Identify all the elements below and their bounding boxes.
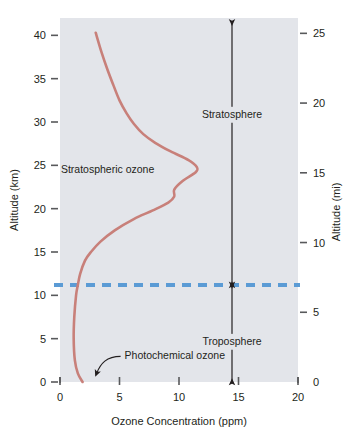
x-axis-tick-label: 5 bbox=[116, 391, 122, 403]
y2-axis-tick-label: 15 bbox=[313, 167, 325, 179]
photochemical-ozone-label: Photochemical ozone bbox=[125, 349, 226, 361]
y-axis-tick-label: 35 bbox=[34, 73, 46, 85]
y2-axis-tick-label: 10 bbox=[313, 237, 325, 249]
x-axis-tick-label: 10 bbox=[173, 391, 185, 403]
y-axis-tick-label: 10 bbox=[34, 289, 46, 301]
x-axis-title: Ozone Concentration (ppm) bbox=[111, 415, 247, 427]
zone-label-troposphere: Troposphere bbox=[202, 335, 261, 347]
y-axis-tick-label: 40 bbox=[34, 29, 46, 41]
y2-axis-tick-label: 25 bbox=[313, 27, 325, 39]
y2-axis-tick-label: 20 bbox=[313, 97, 325, 109]
zone-label-stratosphere: Stratosphere bbox=[202, 108, 262, 120]
y2-axis-title: Altitude (mi) bbox=[330, 183, 342, 242]
y-axis-tick-label: 0 bbox=[40, 376, 46, 388]
x-axis-tick-label: 15 bbox=[232, 391, 244, 403]
x-axis-tick-label: 0 bbox=[57, 391, 63, 403]
y-axis-tick-label: 30 bbox=[34, 116, 46, 128]
ozone-altitude-chart: 0510152025303540051015202505101520Strato… bbox=[0, 0, 353, 435]
y2-axis-tick-label: 0 bbox=[313, 376, 319, 388]
y2-axis-tick-label: 5 bbox=[313, 306, 319, 318]
chart-canvas: 0510152025303540051015202505101520Strato… bbox=[0, 0, 353, 435]
y-axis-tick-label: 5 bbox=[40, 333, 46, 345]
y-axis-tick-label: 15 bbox=[34, 246, 46, 258]
y-axis-tick-label: 25 bbox=[34, 159, 46, 171]
y-axis-tick-label: 20 bbox=[34, 203, 46, 215]
x-axis-tick-label: 20 bbox=[292, 391, 304, 403]
y-axis-title: Altitude (km) bbox=[8, 169, 20, 231]
plot-area-background bbox=[60, 18, 298, 382]
stratospheric-ozone-label: Stratospheric ozone bbox=[61, 163, 155, 175]
